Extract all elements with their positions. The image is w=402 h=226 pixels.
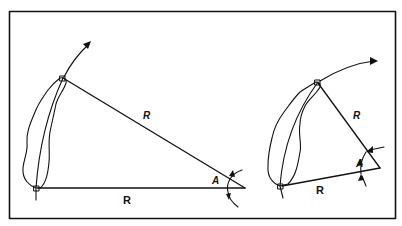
right-panel: R R A — [268, 57, 384, 198]
left-hypotenuse-line — [63, 78, 245, 188]
right-leaf-icon — [268, 82, 320, 186]
right-base-label: R — [316, 184, 324, 196]
right-angle-label: A — [355, 158, 363, 169]
diagram-canvas: R R A R R A — [0, 0, 402, 226]
left-base-label: R — [123, 194, 131, 206]
right-motion-arc — [320, 61, 374, 81]
left-motion-arc — [64, 44, 89, 77]
right-upper-side-line — [318, 83, 380, 168]
left-hypotenuse-label: R — [143, 110, 151, 121]
left-angle-label: A — [211, 175, 219, 186]
left-angle-arrow-top-icon — [229, 170, 235, 177]
left-panel: R R A — [23, 41, 245, 207]
right-upper-side-label: R — [353, 110, 361, 121]
right-motion-arrowhead-icon — [370, 57, 378, 65]
